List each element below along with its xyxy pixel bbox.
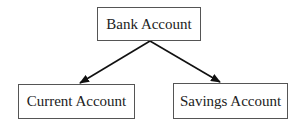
node-label: Savings Account (180, 93, 281, 110)
arrow-bank-to-current (80, 41, 150, 83)
node-label: Current Account (27, 93, 127, 110)
node-bank-account: Bank Account (97, 7, 201, 41)
node-current-account: Current Account (18, 84, 135, 119)
arrow-bank-to-savings (150, 41, 220, 82)
node-label: Bank Account (106, 16, 191, 33)
node-savings-account: Savings Account (173, 83, 288, 119)
